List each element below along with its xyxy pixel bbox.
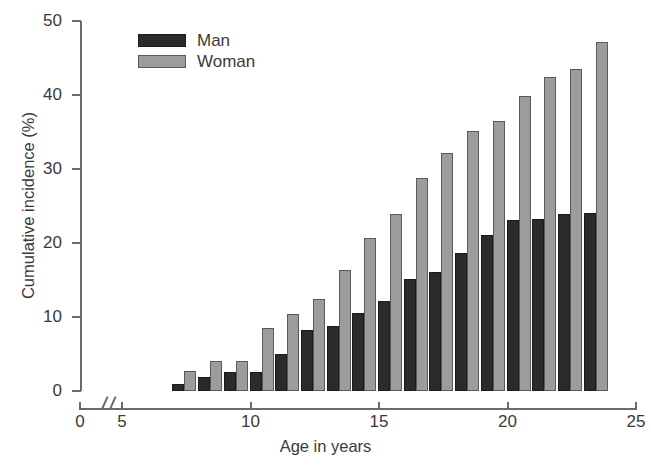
bar-woman-age-12 xyxy=(313,299,325,392)
y-tick-label-50: 50 xyxy=(22,12,62,29)
x-tick-20 xyxy=(507,402,509,410)
bar-woman-age-20 xyxy=(519,96,531,391)
cumulative-incidence-bar-chart: 01020304050 Cumulative incidence (%) 051… xyxy=(0,0,651,470)
y-axis-line xyxy=(80,21,82,391)
y-tick-10 xyxy=(72,316,81,318)
bar-man-age-21 xyxy=(532,219,544,391)
bar-woman-age-23 xyxy=(596,42,608,391)
legend-label-woman: Woman xyxy=(197,53,255,70)
bar-woman-age-13 xyxy=(339,270,351,391)
bar-man-age-17 xyxy=(429,272,441,391)
bar-woman-age-17 xyxy=(441,153,453,391)
bar-woman-age-18 xyxy=(467,131,479,391)
bar-man-age-23 xyxy=(584,213,596,391)
bar-woman-age-16 xyxy=(416,178,428,391)
x-tick-15 xyxy=(378,402,380,410)
plot-area xyxy=(0,0,651,392)
bar-man-age-8 xyxy=(198,377,210,391)
y-tick-40 xyxy=(72,94,81,96)
bar-woman-age-10 xyxy=(262,328,274,391)
y-tick-20 xyxy=(72,242,81,244)
axis-break-mark-2 xyxy=(109,396,116,409)
legend-swatch-man-icon xyxy=(138,34,186,47)
x-tick-label-15: 15 xyxy=(359,413,399,430)
legend-swatch-woman-icon xyxy=(138,55,186,68)
bar-woman-age-7 xyxy=(184,371,196,391)
bar-woman-age-15 xyxy=(390,214,402,391)
bar-man-age-13 xyxy=(327,326,339,391)
bar-man-age-10 xyxy=(250,372,262,391)
bar-man-age-20 xyxy=(507,220,519,391)
x-tick-5 xyxy=(121,402,123,410)
x-tick-label-10: 10 xyxy=(231,413,271,430)
bar-man-age-18 xyxy=(455,253,467,391)
bar-woman-age-19 xyxy=(493,121,505,391)
bar-man-age-19 xyxy=(481,235,493,391)
x-tick-10 xyxy=(250,402,252,410)
bar-woman-age-8 xyxy=(210,361,222,391)
x-tick-label-5: 5 xyxy=(102,413,142,430)
axis-break-mark-1 xyxy=(101,396,108,409)
y-axis-title: Cumulative incidence (%) xyxy=(19,81,38,331)
legend-item-woman: Woman xyxy=(138,51,255,72)
bar-woman-age-21 xyxy=(544,77,556,391)
bar-woman-age-11 xyxy=(287,314,299,391)
bar-woman-age-22 xyxy=(570,69,582,391)
bar-man-age-16 xyxy=(404,279,416,391)
bar-man-age-14 xyxy=(352,313,364,391)
bar-man-age-9 xyxy=(224,372,236,391)
bar-man-age-7 xyxy=(172,384,184,391)
bar-man-age-12 xyxy=(301,330,313,391)
x-axis-line-segment-left xyxy=(80,408,122,410)
y-tick-50 xyxy=(72,20,81,22)
bar-woman-age-14 xyxy=(364,238,376,391)
x-tick-0 xyxy=(79,402,81,410)
bar-woman-age-9 xyxy=(236,361,248,391)
x-tick-label-20: 20 xyxy=(488,413,528,430)
legend: Man Woman xyxy=(138,30,255,72)
bar-man-age-22 xyxy=(558,214,570,391)
y-tick-30 xyxy=(72,168,81,170)
x-tick-25 xyxy=(635,402,637,410)
legend-item-man: Man xyxy=(138,30,255,51)
y-tick-label-0: 0 xyxy=(22,382,62,399)
y-tick-0 xyxy=(72,390,81,392)
bar-man-age-11 xyxy=(275,354,287,391)
legend-label-man: Man xyxy=(197,32,230,49)
x-axis-title: Age in years xyxy=(0,437,651,456)
x-tick-label-0: 0 xyxy=(60,413,100,430)
bar-man-age-15 xyxy=(378,301,390,391)
x-tick-label-25: 25 xyxy=(616,413,651,430)
